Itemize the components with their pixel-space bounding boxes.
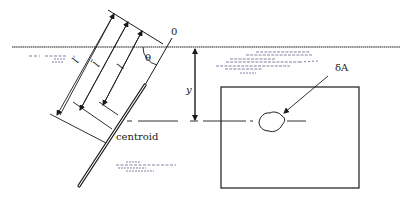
dim-middle-label: l̄ — [91, 59, 103, 69]
depth-label: y — [185, 84, 192, 95]
inclined-plate — [79, 38, 172, 186]
water-hatch-bottom — [116, 162, 176, 171]
element-area-blob — [259, 112, 285, 132]
origin-label: 0 — [171, 26, 177, 37]
angle-label: θ — [145, 52, 151, 63]
centroid-label: centroid — [116, 131, 159, 142]
dimension-l — [99, 31, 142, 115]
dim-inner-label: l — [115, 62, 126, 70]
element-area-leader — [284, 76, 328, 113]
water-hatch-right — [216, 52, 318, 73]
plane-area — [221, 87, 359, 188]
dim-outer-label: l′ — [70, 54, 83, 65]
water-hatch-left — [29, 56, 66, 62]
top-extension-line — [108, 10, 163, 44]
diagram-canvas: 0 θ l′ l̄ l centroid y δA — [0, 0, 412, 201]
element-area-label: δA — [335, 62, 349, 73]
